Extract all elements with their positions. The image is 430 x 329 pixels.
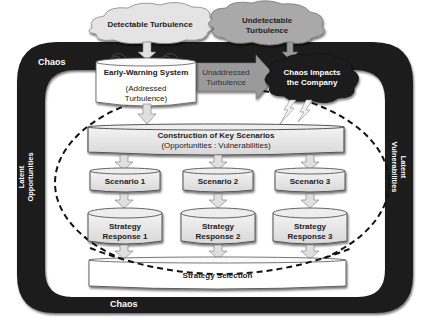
scenario-1-label: Scenario 1 — [90, 177, 160, 187]
chaos-impacts-line2: the Company — [272, 78, 352, 88]
strategy-response-1-label: Strategy Response 1 — [88, 222, 162, 242]
scenario-2-label: Scenario 2 — [183, 177, 253, 187]
strategy-response-3-label: Strategy Response 3 — [273, 222, 347, 242]
unaddressed-turbulence-label: Unaddressed Turbulence — [196, 68, 256, 88]
response-2-line1: Strategy — [181, 222, 255, 232]
early-warning-subtitle: (Addressed Turbulence) — [96, 84, 196, 104]
response-3-line2: Response 3 — [273, 232, 347, 242]
latent-vulnerabilities-label: Latent Vulnerabilities — [390, 137, 408, 197]
strategy-selection-label: Strategy Selection — [89, 271, 346, 281]
response-3-line1: Strategy — [273, 222, 347, 232]
construction-title: Construction of Key Scenarios — [88, 131, 344, 141]
strategy-response-2-label: Strategy Response 2 — [181, 222, 255, 242]
early-warning-sub-line2: Turbulence) — [96, 94, 196, 104]
chaos-impacts-label: Chaos Impacts the Company — [272, 68, 352, 88]
unaddressed-line1: Unaddressed — [196, 68, 256, 78]
chaos-impacts-line1: Chaos Impacts — [272, 68, 352, 78]
response-1-line1: Strategy — [88, 222, 162, 232]
scenario-3-label: Scenario 3 — [275, 177, 345, 187]
unaddressed-line2: Turbulence — [196, 78, 256, 88]
undetectable-line2: Turbulence — [222, 26, 312, 36]
response-2-line2: Response 2 — [181, 232, 255, 242]
lightning-bolts — [280, 100, 312, 124]
latent-vulnerabilities-line1: Latent — [399, 137, 408, 197]
latent-opportunities-line1: Latent — [17, 147, 26, 207]
strategy-diagram: Chaos Chaos Latent Opportunities Latent … — [0, 0, 430, 329]
chaos-label-top: Chaos — [38, 57, 66, 67]
early-warning-title: Early-Warning System — [96, 68, 196, 78]
chaos-label-bottom: Chaos — [110, 299, 138, 309]
undetectable-line1: Undetectable — [222, 16, 312, 26]
ews-to-construction-arrow — [138, 104, 156, 124]
early-warning-sub-line1: (Addressed — [96, 84, 196, 94]
latent-vulnerabilities-line2: Vulnerabilities — [390, 137, 399, 197]
latent-opportunities-line2: Opportunities — [26, 147, 35, 207]
scenario-arrows — [115, 194, 319, 208]
response-1-line2: Response 1 — [88, 232, 162, 242]
undetectable-turbulence-label: Undetectable Turbulence — [222, 16, 312, 36]
detectable-turbulence-label: Detectable Turbulence — [100, 20, 200, 30]
latent-opportunities-label: Latent Opportunities — [17, 147, 35, 207]
construction-subtitle: (Opportunities : Vulnerabilities) — [88, 141, 344, 151]
